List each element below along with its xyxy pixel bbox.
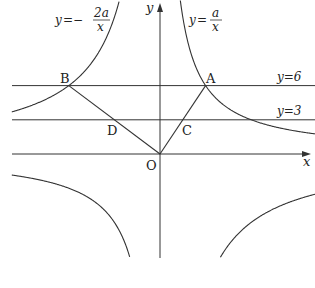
coordinate-diagram: B A D C O x y y=6 y=3 y = a x y =− 2a x xyxy=(0,0,315,288)
origin-label: O xyxy=(146,158,157,173)
curve-neg-2a-over-x-q4 xyxy=(220,194,315,258)
line-y6-label: y=6 xyxy=(276,70,302,84)
svg-text:x: x xyxy=(97,20,104,34)
curve-a-over-x-q3 xyxy=(12,175,130,257)
svg-text:y: y xyxy=(54,13,62,27)
line-y3-label: y=3 xyxy=(276,104,302,118)
svg-text:a: a xyxy=(212,6,219,20)
svg-text:y: y xyxy=(188,13,196,27)
point-label-D: D xyxy=(107,123,117,138)
curve-a-over-x-label: y = a x xyxy=(188,6,222,34)
y-axis-arrow-icon xyxy=(157,3,163,12)
point-label-B: B xyxy=(60,71,70,86)
point-label-A: A xyxy=(205,71,216,86)
svg-text:x: x xyxy=(212,20,219,34)
point-label-C: C xyxy=(182,123,192,138)
curve-neg-2a-over-x-label: y =− 2a x xyxy=(54,6,110,34)
svg-text:=−: =− xyxy=(63,13,83,27)
svg-text:2a: 2a xyxy=(93,6,109,20)
x-axis-label: x xyxy=(303,154,311,169)
svg-text:=: = xyxy=(197,13,207,27)
y-axis-label: y xyxy=(145,0,154,15)
